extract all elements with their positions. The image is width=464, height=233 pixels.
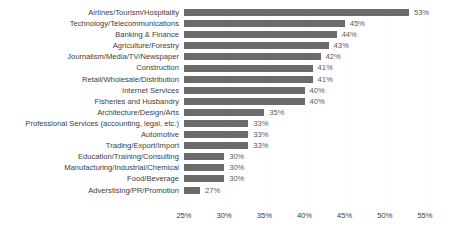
category-label: Architecture/Design/Arts — [97, 107, 179, 118]
bar-row: Trading/Export/Import33% — [184, 140, 425, 151]
category-label: Construction — [136, 62, 179, 73]
value-label: 44% — [342, 29, 357, 40]
bar-row: Technology/Telecommunications45% — [184, 18, 425, 29]
category-label: Fisheries and Husbandry — [95, 96, 179, 107]
bar — [184, 76, 313, 83]
bar-row: Retail/Wholesale/Distribution41% — [184, 74, 425, 85]
value-label: 30% — [229, 162, 244, 173]
category-label: Manufacturing/Industrial/Chemical — [64, 162, 179, 173]
value-label: 43% — [334, 40, 349, 51]
category-label: Banking & Finance — [115, 29, 179, 40]
value-label: 33% — [253, 129, 268, 140]
x-axis-tick-label: 30% — [217, 211, 232, 220]
bar-rows: Airlines/Tourism/Hospitality53%Technolog… — [184, 7, 425, 196]
value-label: 35% — [269, 107, 284, 118]
x-axis-tick-label: 40% — [297, 211, 312, 220]
bar — [184, 175, 224, 182]
value-label: 30% — [229, 173, 244, 184]
category-label: Adverstising/PR/Promotion — [88, 185, 179, 196]
category-label: Internet Services — [122, 85, 179, 96]
value-label: 41% — [318, 74, 333, 85]
x-axis-tick-label: 55% — [417, 211, 432, 220]
bar-row: Education/Training/Consulting30% — [184, 151, 425, 162]
bar-row: Manufacturing/Industrial/Chemical30% — [184, 162, 425, 173]
bar — [184, 42, 329, 49]
x-axis-tick-label: 25% — [176, 211, 191, 220]
value-label: 53% — [414, 7, 429, 18]
bar-row: Architecture/Design/Arts35% — [184, 107, 425, 118]
value-label: 40% — [310, 96, 325, 107]
value-label: 42% — [326, 51, 341, 62]
bar-row: Agriculture/Forestry43% — [184, 40, 425, 51]
bar — [184, 31, 337, 38]
value-label: 33% — [253, 118, 268, 129]
bar — [184, 142, 248, 149]
bar-row: Professional Services (accounting, legal… — [184, 118, 425, 129]
category-label: Airlines/Tourism/Hospitality — [88, 7, 179, 18]
bar-row: Airlines/Tourism/Hospitality53% — [184, 7, 425, 18]
x-axis-tick-label: 45% — [337, 211, 352, 220]
category-label: Education/Training/Consulting — [78, 151, 179, 162]
category-label: Trading/Export/Import — [106, 140, 179, 151]
category-label: Technology/Telecommunications — [70, 18, 179, 29]
bar — [184, 164, 224, 171]
bar-row: Journalism/Media/TV/Newspaper42% — [184, 51, 425, 62]
bar-chart: Airlines/Tourism/Hospitality53%Technolog… — [0, 0, 464, 233]
bar — [184, 53, 321, 60]
bar-row: Internet Services40% — [184, 85, 425, 96]
category-label: Journalism/Media/TV/Newspaper — [67, 51, 179, 62]
value-label: 45% — [350, 18, 365, 29]
bar — [184, 153, 224, 160]
gridline-55pct — [425, 7, 426, 207]
bar — [184, 120, 248, 127]
bar-row: Fisheries and Husbandry40% — [184, 96, 425, 107]
bar-row: Automotive33% — [184, 129, 425, 140]
value-label: 30% — [229, 151, 244, 162]
value-label: 41% — [318, 62, 333, 73]
bar — [184, 87, 305, 94]
bar — [184, 109, 264, 116]
value-label: 27% — [205, 185, 220, 196]
category-label: Food/Beverage — [127, 173, 179, 184]
x-axis-tick-label: 50% — [377, 211, 392, 220]
bar-row: Adverstising/PR/Promotion27% — [184, 185, 425, 196]
category-label: Professional Services (accounting, legal… — [25, 118, 179, 129]
bar — [184, 9, 409, 16]
bar — [184, 131, 248, 138]
value-label: 33% — [253, 140, 268, 151]
bar — [184, 20, 345, 27]
category-label: Agriculture/Forestry — [113, 40, 179, 51]
value-label: 40% — [310, 85, 325, 96]
plot-area: Airlines/Tourism/Hospitality53%Technolog… — [184, 7, 425, 207]
bar — [184, 65, 313, 72]
category-label: Automotive — [141, 129, 179, 140]
bar-row: Construction41% — [184, 62, 425, 73]
x-axis: 25%30%35%40%45%50%55% — [184, 209, 425, 229]
bar — [184, 98, 305, 105]
category-label: Retail/Wholesale/Distribution — [82, 74, 179, 85]
bar-row: Banking & Finance44% — [184, 29, 425, 40]
bar — [184, 187, 200, 194]
x-axis-tick-label: 35% — [257, 211, 272, 220]
bar-row: Food/Beverage30% — [184, 173, 425, 184]
